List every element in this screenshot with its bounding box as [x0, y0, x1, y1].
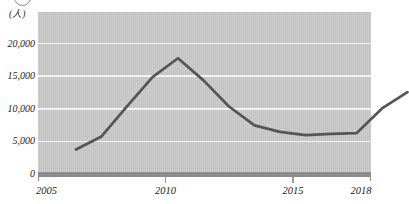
x-axis-baseline: [38, 172, 371, 177]
y-tick-label: 15,000: [8, 71, 36, 81]
x-tick-label: 2018: [351, 185, 372, 196]
x-tick-mark: [165, 177, 166, 183]
data-series-line: [76, 58, 408, 149]
x-tick-label: 2010: [155, 185, 176, 196]
x-axis-right-cap: [370, 172, 371, 181]
data-line-layer: [76, 24, 409, 184]
x-tick-label: 2015: [283, 185, 304, 196]
y-tick-label: 5,000: [13, 136, 36, 146]
y-tick-label: 10,000: [8, 104, 36, 114]
y-tick-label: 20,000: [8, 39, 36, 49]
x-tick-label: 2005: [36, 185, 57, 196]
plot-area: [38, 12, 371, 172]
x-axis-left-cap: [38, 172, 39, 181]
x-tick-mark: [292, 177, 293, 183]
y-tick-label: 0: [30, 169, 35, 179]
y-axis-tick-labels: 05,00010,00015,00020,000: [0, 0, 35, 204]
